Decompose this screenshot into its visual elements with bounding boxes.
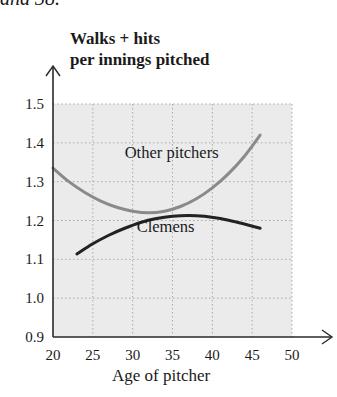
y-tick-label: 1.1 [25,251,44,267]
y-tick-label: 0.9 [25,329,44,345]
y-tick-label: 1.5 [25,96,44,112]
x-tick-label: 25 [85,347,100,363]
y-tick-labels: 0.91.01.11.21.31.41.5 [25,96,44,345]
x-tick-labels: 20253035404550 [46,347,300,363]
x-tick-label: 20 [46,347,61,363]
x-tick-label: 50 [285,347,300,363]
series-label-other-pitchers: Other pitchers [125,143,219,162]
y-tick-label: 1.4 [25,135,44,151]
x-tick-label: 30 [125,347,140,363]
x-tick-label: 40 [205,347,220,363]
y-tick-label: 1.3 [25,174,44,190]
line-chart: Other pitchersClemens 0.91.01.11.21.31.4… [0,0,337,397]
x-tick-label: 45 [245,347,260,363]
series-label-clemens: Clemens [137,217,195,236]
x-tick-label: 35 [165,347,180,363]
y-tick-label: 1.2 [25,213,44,229]
x-axis-label-text: Age of pitcher [112,366,210,386]
y-tick-label: 1.0 [25,290,44,306]
